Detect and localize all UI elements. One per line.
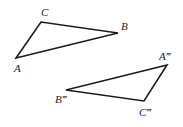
label-c-triple-prime: C‴ [139,106,152,118]
label-b: B [121,20,128,32]
label-a: A [13,62,21,74]
triangle-a3b3c3 [66,65,167,101]
triangle-figure: A B C A‴ B‴ C‴ [0,0,183,127]
label-c: C [41,6,49,18]
label-b-triple-prime: B‴ [55,93,68,105]
label-a-triple-prime: A‴ [158,50,172,62]
triangle-abc [16,22,118,58]
